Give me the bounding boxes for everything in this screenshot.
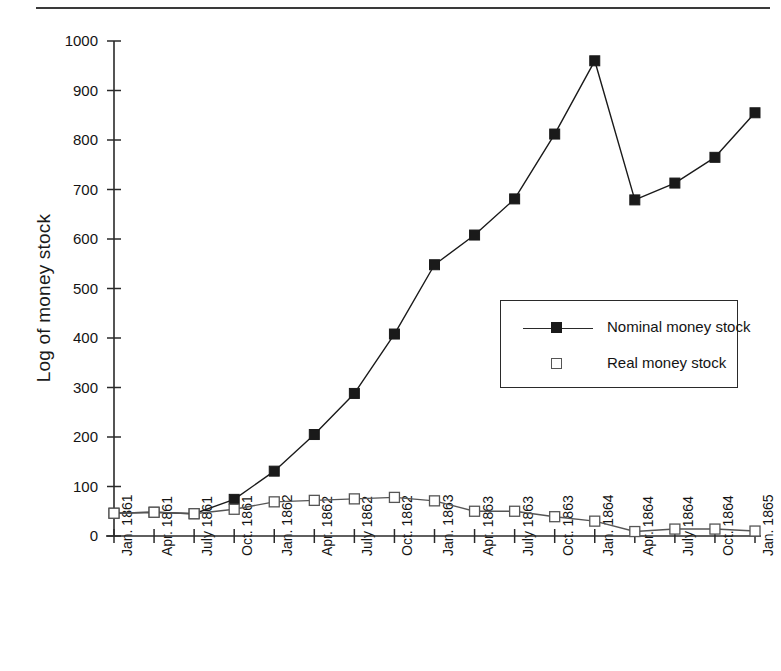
legend: Nominal money stock Real money stock [500, 300, 738, 388]
data-point-real [269, 497, 279, 507]
data-point-nominal [510, 194, 520, 204]
data-point-nominal [349, 388, 359, 398]
data-point-real [109, 508, 119, 518]
data-point-real [670, 524, 680, 534]
legend-label-real: Real money stock [607, 354, 726, 371]
data-point-nominal [750, 108, 760, 118]
data-point-nominal [309, 430, 319, 440]
data-point-nominal [670, 178, 680, 188]
data-series [109, 56, 760, 537]
data-point-nominal [470, 230, 480, 240]
legend-item-nominal: Nominal money stock [501, 315, 737, 343]
data-point-nominal [229, 494, 239, 504]
data-point-real [470, 506, 480, 516]
data-point-nominal [550, 129, 560, 139]
data-point-real [189, 509, 199, 519]
data-point-real [349, 494, 359, 504]
data-point-real [710, 524, 720, 534]
data-point-real [430, 496, 440, 506]
data-point-real [630, 527, 640, 537]
data-point-real [550, 512, 560, 522]
data-point-nominal [430, 260, 440, 270]
data-point-nominal [269, 466, 279, 476]
data-point-nominal [630, 195, 640, 205]
legend-marker-filled-square-icon [551, 322, 562, 333]
data-point-real [750, 526, 760, 536]
data-point-real [229, 504, 239, 514]
legend-label-nominal: Nominal money stock [607, 318, 750, 335]
data-point-real [309, 495, 319, 505]
legend-item-real: Real money stock [501, 351, 737, 379]
data-point-nominal [710, 152, 720, 162]
data-point-real [590, 516, 600, 526]
data-point-nominal [389, 329, 399, 339]
data-point-real [389, 492, 399, 502]
legend-marker-open-square-icon [551, 358, 562, 369]
chart-figure: Log of money stock 010020030040050060070… [0, 0, 781, 671]
data-point-nominal [590, 56, 600, 66]
data-point-real [149, 507, 159, 517]
data-point-real [510, 506, 520, 516]
axes [106, 41, 761, 543]
series-line-nominal [114, 61, 755, 514]
